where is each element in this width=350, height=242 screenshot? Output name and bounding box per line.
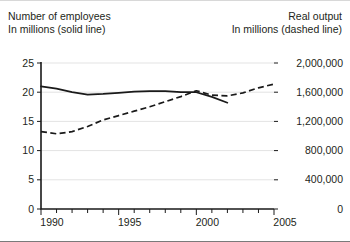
y-tick-label: 0 <box>28 203 34 215</box>
y-axis-tick-labels: 0510152025 <box>22 57 34 215</box>
gridlines <box>41 63 274 180</box>
y2-tick-label: 0 <box>337 203 343 215</box>
y2-tick-label: 1,600,000 <box>296 86 343 98</box>
x-axis-tick-labels: 1990199520002005 <box>40 216 297 228</box>
y2-tick-label: 2,000,000 <box>296 57 343 69</box>
y2-tick-label: 800,000 <box>305 144 343 156</box>
x-tick-label: 2000 <box>196 216 220 228</box>
y2-tick-label: 400,000 <box>305 173 343 185</box>
x-axis-ticks <box>41 209 274 215</box>
y-tick-label: 25 <box>22 57 34 69</box>
line-chart-plot: 0510152025 0400,000800,0001,200,0001,600… <box>0 1 350 242</box>
y-tick-label: 15 <box>22 115 34 127</box>
y-tick-label: 5 <box>28 173 34 185</box>
y-tick-label: 20 <box>22 86 34 98</box>
data-series <box>41 84 274 134</box>
y2-axis-tick-labels: 0400,000800,0001,200,0001,600,0002,000,0… <box>296 57 343 215</box>
axis-lines <box>41 62 274 209</box>
chart-figure: Number of employees In millions (solid l… <box>0 0 350 242</box>
axis-line <box>41 62 274 209</box>
x-tick-label: 2005 <box>273 216 297 228</box>
x-tick-label: 1995 <box>118 216 142 228</box>
y2-axis-ticks <box>274 63 278 209</box>
y-tick-label: 10 <box>22 144 34 156</box>
y2-tick-label: 1,200,000 <box>296 115 343 127</box>
x-tick-label: 1990 <box>40 216 64 228</box>
series-solid <box>41 86 227 102</box>
